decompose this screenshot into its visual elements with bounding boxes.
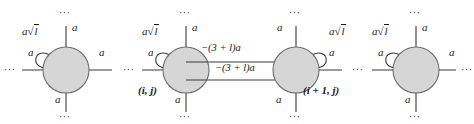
ellipsis-left-of-node-1: ··· (4, 65, 16, 75)
node-3-up-weight: a (277, 22, 283, 33)
ellipsis-below-node-2: ··· (179, 112, 191, 122)
node-2-up-weight: a (192, 22, 198, 33)
node-4-radicand: l (384, 24, 389, 37)
node-1-down-weight: a (55, 94, 61, 105)
node-2-name: (i, j) (138, 85, 157, 96)
node-3-down-weight: a (276, 94, 282, 105)
node-1-up-weight: a (72, 22, 78, 33)
ellipsis-above-node-1: ··· (59, 8, 71, 18)
node-2-loop-weight: a√l (142, 26, 159, 37)
node-1-loop-weight: a√l (22, 26, 39, 37)
node-3-radical-icon: √ (335, 25, 341, 37)
node-2-radicand: l (154, 24, 159, 37)
node-4-right-weight: a (449, 47, 455, 58)
ellipsis-below-node-4: ··· (409, 112, 421, 122)
node-3-radicand: l (341, 24, 346, 37)
ellipsis-below-node-3: ··· (289, 112, 301, 122)
ellipsis-above-node-4: ··· (409, 8, 421, 18)
ellipsis-right-of-node-3: ··· (352, 65, 364, 75)
node-2-circle (163, 47, 209, 93)
node-4-down-weight: a (405, 94, 411, 105)
node-1-right-weight: a (99, 47, 105, 58)
connecting-edge-upper-weight: −(3 + l)a (201, 43, 241, 54)
node-3-right-weight: a (329, 47, 335, 58)
ellipsis-left-of-node-2: ··· (123, 65, 135, 75)
node-4-loop-weight: a√l (372, 26, 389, 37)
node-3-group (273, 26, 342, 112)
node-4-group (372, 26, 456, 112)
node-2-radical-icon: √ (148, 25, 154, 37)
node-4-circle (393, 47, 439, 93)
node-2-left-weight: a (148, 47, 154, 58)
figure-canvas: ··· ··· ··· ··· ··· ··· ··· ··· ··· ··· … (0, 0, 474, 124)
ellipsis-above-node-3: ··· (289, 8, 301, 18)
node-3-name: (i + 1, j) (303, 85, 339, 96)
node-1-left-weight: a (28, 47, 34, 58)
ellipsis-right-of-node-4: ··· (461, 65, 473, 75)
node-3-loop-weight: a√l (329, 26, 346, 37)
node-1-radical-icon: √ (28, 25, 34, 37)
node-4-radical-icon: √ (378, 25, 384, 37)
connecting-edge-lower-weight: −(3 + l)a (215, 63, 255, 74)
node-4-up-weight: a (422, 22, 428, 33)
ellipsis-above-node-2: ··· (179, 8, 191, 18)
node-1-group (22, 26, 112, 112)
node-1-circle (43, 47, 89, 93)
node-2-down-weight: a (175, 94, 181, 105)
ellipsis-below-node-1: ··· (59, 112, 71, 122)
node-4-left-weight: a (378, 47, 384, 58)
node-1-radicand: l (34, 24, 39, 37)
